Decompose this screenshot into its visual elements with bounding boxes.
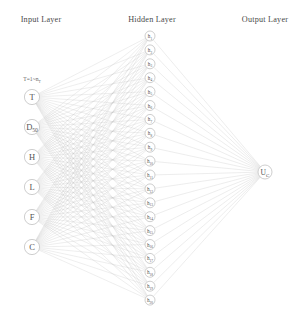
input-layer-node-label: H bbox=[29, 152, 35, 162]
network-canvas: Input Layer Hidden Layer Output Layer T=… bbox=[0, 0, 306, 317]
input-range-label: T=1~nT bbox=[23, 76, 41, 84]
edge-input-hidden bbox=[37, 103, 147, 241]
edge-input-hidden bbox=[39, 160, 145, 201]
edge-input-hidden bbox=[38, 53, 145, 123]
edge-input-hidden bbox=[39, 159, 145, 188]
hidden-layer-node[interactable]: h13 bbox=[145, 198, 155, 208]
input-layer-node[interactable]: L bbox=[24, 179, 39, 194]
edge-input-hidden bbox=[37, 40, 146, 152]
input-range-annotation: T=1~nT bbox=[23, 76, 41, 84]
edge-hidden-output bbox=[154, 67, 260, 167]
input-layer-node-label: F bbox=[30, 212, 35, 222]
edge-hidden-output bbox=[154, 176, 259, 255]
input-layer-node-label: L bbox=[29, 182, 34, 192]
hidden-layer-title: Hidden Layer bbox=[128, 15, 176, 24]
input-layer-title: Input Layer bbox=[21, 15, 62, 24]
hidden-layer-node[interactable]: h9 bbox=[145, 142, 155, 152]
input-layer-node[interactable]: F bbox=[24, 209, 39, 224]
hidden-layer-node[interactable]: h1 bbox=[145, 31, 155, 41]
hidden-layer-node[interactable]: h20 bbox=[145, 295, 155, 305]
edge-input-hidden bbox=[38, 192, 146, 283]
hidden-layer-node[interactable]: h3 bbox=[145, 59, 155, 69]
hidden-layer-node[interactable]: h8 bbox=[145, 128, 155, 138]
edge-hidden-output bbox=[153, 177, 260, 296]
edge-input-hidden bbox=[40, 79, 146, 96]
input-layer-node[interactable]: D50 bbox=[24, 119, 39, 134]
edges-hidden-to-output bbox=[153, 40, 260, 297]
edge-input-hidden bbox=[39, 108, 145, 154]
input-layer-nodes: TD50HLFC bbox=[24, 89, 39, 254]
edge-hidden-output bbox=[154, 175, 258, 228]
output-layer-title: Output Layer bbox=[242, 15, 288, 24]
edge-input-hidden bbox=[39, 219, 145, 244]
hidden-layer-node[interactable]: h12 bbox=[145, 184, 155, 194]
edge-input-hidden bbox=[38, 161, 145, 228]
output-layer-node[interactable]: UC bbox=[258, 165, 272, 179]
edge-hidden-output bbox=[155, 135, 259, 170]
hidden-layer-node[interactable]: h16 bbox=[145, 240, 155, 250]
input-layer-node[interactable]: H bbox=[24, 149, 39, 164]
output-layer-nodes: UC bbox=[258, 165, 272, 179]
hidden-layer-node[interactable]: h11 bbox=[145, 170, 155, 180]
hidden-layer-node[interactable]: h18 bbox=[145, 267, 155, 277]
edge-hidden-output bbox=[154, 81, 260, 168]
edge-input-hidden bbox=[38, 80, 146, 152]
edge-hidden-output bbox=[154, 177, 260, 269]
edge-hidden-output bbox=[153, 40, 260, 167]
edge-input-hidden bbox=[39, 249, 145, 284]
edge-input-hidden bbox=[38, 39, 146, 122]
hidden-layer-node[interactable]: h4 bbox=[145, 73, 155, 83]
hidden-layer-node[interactable]: h10 bbox=[145, 156, 155, 166]
edge-input-hidden bbox=[39, 220, 145, 257]
edge-hidden-output bbox=[154, 94, 259, 168]
edge-hidden-output bbox=[155, 162, 258, 172]
layer-titles: Input Layer Hidden Layer Output Layer bbox=[21, 15, 289, 24]
input-layer-node-label: C bbox=[29, 242, 35, 252]
hidden-layer-node[interactable]: h2 bbox=[145, 45, 155, 55]
edge-hidden-output bbox=[155, 172, 258, 175]
hidden-layer-node[interactable]: h17 bbox=[145, 253, 155, 263]
edge-input-hidden bbox=[39, 205, 145, 245]
hidden-layer-node[interactable]: h6 bbox=[145, 101, 155, 111]
hidden-layer-node[interactable]: h15 bbox=[145, 226, 155, 236]
edge-hidden-output bbox=[155, 174, 258, 202]
edge-input-hidden bbox=[39, 135, 146, 183]
hidden-layer-node[interactable]: h7 bbox=[145, 114, 155, 124]
edge-hidden-output bbox=[153, 54, 260, 167]
hidden-layer-node[interactable]: h19 bbox=[145, 281, 155, 291]
edge-hidden-output bbox=[155, 121, 259, 169]
neural-network-diagram: Input Layer Hidden Layer Output Layer T=… bbox=[0, 0, 306, 317]
edges-input-to-hidden bbox=[36, 38, 148, 298]
edge-input-hidden bbox=[38, 221, 146, 297]
hidden-layer-node[interactable]: h5 bbox=[145, 87, 155, 97]
edge-input-hidden bbox=[38, 162, 146, 255]
edge-hidden-output bbox=[155, 148, 258, 170]
hidden-layer-node[interactable]: h14 bbox=[145, 212, 155, 222]
edge-hidden-output bbox=[154, 177, 260, 283]
input-layer-node[interactable]: C bbox=[24, 239, 39, 254]
input-layer-node-label: T bbox=[29, 92, 35, 102]
hidden-layer-nodes: h1h2h3h4h5h6h7h8h9h10h11h12h13h14h15h16h… bbox=[145, 31, 155, 305]
input-layer-node[interactable]: T bbox=[24, 89, 39, 104]
edge-input-hidden bbox=[37, 163, 147, 283]
edge-input-hidden bbox=[39, 66, 146, 123]
